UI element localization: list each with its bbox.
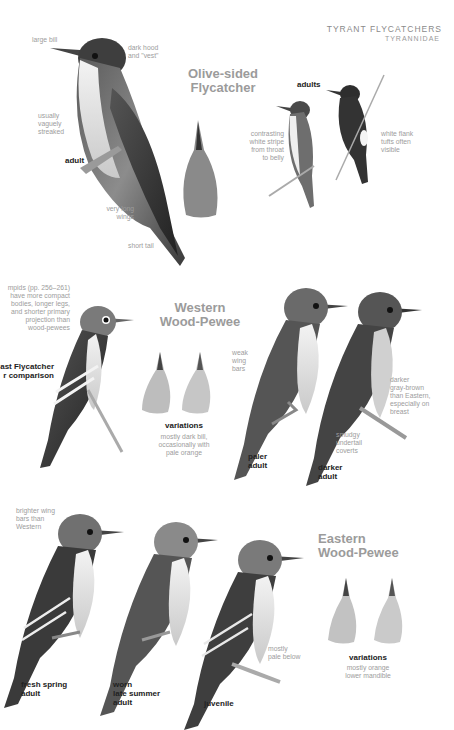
eastern-bill-variation-2-illustration — [372, 578, 408, 644]
label-line: fresh spring — [21, 680, 67, 689]
note-short-tail: short tail — [128, 242, 154, 250]
label-line: adult — [113, 698, 160, 707]
note-line: to belly — [236, 154, 284, 162]
note-line: vaguely — [38, 120, 64, 128]
note-line: mostly orange — [328, 664, 408, 672]
family-latin-name: TYRANNIDAE — [385, 35, 440, 42]
note-line: mostly dark bill, — [146, 433, 222, 441]
label-line: worn — [113, 680, 160, 689]
note-darker-gray-brown: darker gray-brown than Eastern, especial… — [390, 376, 430, 416]
western-bill-variation-1-illustration — [138, 352, 174, 414]
note-line: mpids (pp. 256–261) — [0, 284, 70, 292]
eastern-juvenile-illustration — [180, 534, 310, 730]
eastern-bill-variation-1-illustration — [326, 578, 362, 644]
note-line: lower mandible — [328, 672, 408, 680]
title-line: Flycatcher — [178, 81, 268, 95]
species-title-olive-sided: Olive-sided Flycatcher — [178, 67, 268, 95]
species-title-western: Western Wood-Pewee — [158, 301, 242, 329]
note-line: pale below — [268, 653, 301, 661]
title-line: Eastern — [318, 532, 402, 546]
note-contrasting-stripe: contrasting white stripe from throat to … — [236, 130, 284, 162]
label-line: darker — [318, 463, 342, 472]
note-streaked: usually vaguely streaked — [38, 112, 64, 136]
label-juvenile: juvenile — [204, 699, 234, 708]
species-title-eastern: Eastern Wood-Pewee — [318, 532, 402, 560]
label-fresh-spring-adult: fresh spring adult — [21, 680, 67, 698]
western-bill-variation-2-illustration — [178, 352, 214, 414]
note-line: and "vest" — [128, 52, 159, 60]
note-line: have more compact — [0, 292, 70, 300]
note-line: undertail — [336, 439, 362, 447]
note-line: than Eastern, — [390, 392, 430, 400]
label-line: paler — [248, 452, 267, 461]
note-line: occasionally with — [146, 441, 222, 449]
label-worn-late-summer-adult: worn late summer adult — [113, 680, 160, 707]
note-line: visible — [381, 146, 413, 154]
note-line: wings — [98, 213, 134, 221]
note-line: pale orange — [146, 449, 222, 457]
note-white-flank: white flank tufts often visible — [381, 130, 413, 154]
note-line: contrasting — [236, 130, 284, 138]
note-line: dark hood — [128, 44, 159, 52]
label-line: adult — [248, 461, 267, 470]
note-large-bill: large bill — [32, 36, 57, 44]
note-line: tufts often — [381, 138, 413, 146]
note-line: white stripe — [236, 138, 284, 146]
note-line: smudgy — [336, 431, 362, 439]
note-line: darker — [390, 376, 430, 384]
note-mostly-pale-below: mostly pale below — [268, 645, 301, 661]
empid-flycatcher-illustration — [38, 300, 138, 470]
note-line: mostly — [268, 645, 301, 653]
note-line: very long — [98, 205, 134, 213]
title-line: Wood-Pewee — [318, 546, 402, 560]
note-line: coverts — [336, 447, 362, 455]
label-darker-adult: darker adult — [318, 463, 342, 481]
note-western-bill: mostly dark bill, occasionally with pale… — [146, 433, 222, 457]
title-line: Wood-Pewee — [158, 315, 242, 329]
label-line: adult — [318, 472, 342, 481]
olive-sided-adult-illustration — [40, 28, 190, 268]
note-smudgy-undertail: smudgy undertail coverts — [336, 431, 362, 455]
note-line: streaked — [38, 128, 64, 136]
note-long-wings: very long wings — [98, 205, 134, 221]
label-adults: adults — [297, 80, 321, 89]
note-line: especially on — [390, 400, 430, 408]
note-orange-mandible: mostly orange lower mandible — [328, 664, 408, 680]
olive-sided-bill-view-illustration — [176, 120, 226, 220]
label-line: late summer — [113, 689, 160, 698]
label-western-variations: variations — [154, 421, 214, 430]
note-line: gray-brown — [390, 384, 430, 392]
title-line: Western — [158, 301, 242, 315]
note-dark-hood: dark hood and "vest" — [128, 44, 159, 60]
family-common-name: TYRANT FLYCATCHERS — [327, 24, 442, 34]
label-adult: adult — [65, 156, 84, 165]
note-line: usually — [38, 112, 64, 120]
note-line: breast — [390, 408, 430, 416]
label-paler-adult: paler adult — [248, 452, 267, 470]
label-line: adult — [21, 689, 67, 698]
title-line: Olive-sided — [178, 67, 268, 81]
note-line: from throat — [236, 146, 284, 154]
note-line: white flank — [381, 130, 413, 138]
label-eastern-variations: variations — [328, 653, 408, 662]
